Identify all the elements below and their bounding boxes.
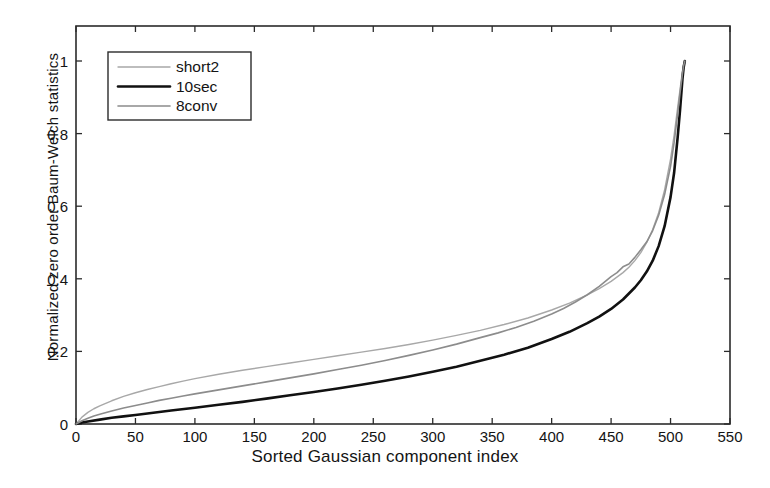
x-tick-label: 350 (480, 428, 505, 445)
x-axis-title: Sorted Gaussian component index (0, 447, 770, 467)
chart-plot-area (0, 0, 770, 488)
y-tick-label: 0.8 (34, 125, 68, 142)
y-tick-label: 0 (34, 416, 68, 433)
x-tick-label: 550 (717, 428, 742, 445)
y-tick-label: 0.2 (34, 343, 68, 360)
y-tick-label: 0.6 (34, 198, 68, 215)
y-tick-label: 1 (34, 53, 68, 70)
legend-label-8conv: 8conv (176, 97, 217, 115)
x-tick-label: 50 (127, 428, 144, 445)
x-tick-label: 150 (242, 428, 267, 445)
y-tick-label: 0.4 (34, 270, 68, 287)
x-tick-label: 450 (599, 428, 624, 445)
chart-figure: Sorted Gaussian component index Normaliz… (0, 0, 770, 488)
legend-label-short2: short2 (176, 58, 219, 76)
x-tick-label: 0 (72, 428, 80, 445)
x-tick-label: 100 (182, 428, 207, 445)
x-tick-label: 300 (420, 428, 445, 445)
x-tick-label: 200 (301, 428, 326, 445)
x-tick-label: 400 (539, 428, 564, 445)
x-tick-label: 250 (361, 428, 386, 445)
x-tick-label: 500 (658, 428, 683, 445)
legend-label-10sec: 10sec (176, 78, 217, 96)
